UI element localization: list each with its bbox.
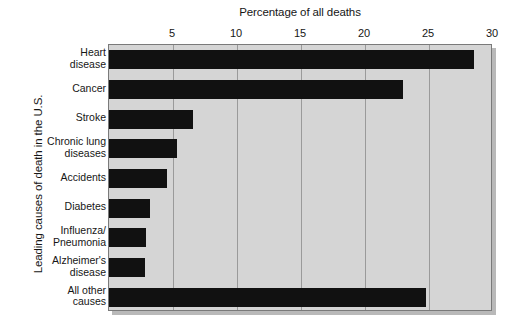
category-label-line: Pneumonia bbox=[22, 237, 106, 249]
bar bbox=[109, 258, 145, 277]
category-label-list: HeartdiseaseCancerStrokeChronic lungdise… bbox=[22, 44, 106, 314]
category-label: Cancer bbox=[22, 83, 106, 95]
bar bbox=[109, 110, 193, 129]
x-tick-label-25: 25 bbox=[422, 27, 434, 39]
category-label: Alzheimer'sdisease bbox=[22, 255, 106, 278]
x-tick-label-10: 10 bbox=[230, 27, 242, 39]
bar bbox=[109, 50, 474, 69]
x-axis-title: Percentage of all deaths bbox=[108, 6, 492, 18]
category-label-line: Cancer bbox=[22, 83, 106, 95]
x-tick-label-30: 30 bbox=[486, 27, 498, 39]
category-label-line: causes bbox=[22, 296, 106, 308]
bar bbox=[109, 139, 177, 158]
category-label: All othercauses bbox=[22, 285, 106, 308]
bar bbox=[109, 169, 167, 188]
x-tick-label-5: 5 bbox=[169, 27, 175, 39]
category-label: Diabetes bbox=[22, 201, 106, 213]
bar bbox=[109, 228, 146, 247]
x-tick-label-20: 20 bbox=[358, 27, 370, 39]
category-label-line: Stroke bbox=[22, 112, 106, 124]
category-label-line: disease bbox=[22, 267, 106, 279]
gridline-25 bbox=[429, 45, 430, 310]
bar bbox=[109, 288, 426, 307]
category-label: Heartdisease bbox=[22, 47, 106, 70]
category-label-line: diseases bbox=[22, 148, 106, 160]
plot-area bbox=[108, 44, 492, 311]
category-label: Chronic lungdiseases bbox=[22, 136, 106, 159]
category-label-line: Accidents bbox=[22, 172, 106, 184]
x-axis-tick-labels: 51015202530 bbox=[0, 27, 511, 41]
bar bbox=[109, 199, 150, 218]
category-label: Accidents bbox=[22, 172, 106, 184]
x-tick-label-15: 15 bbox=[294, 27, 306, 39]
category-label: Stroke bbox=[22, 112, 106, 124]
category-label-line: disease bbox=[22, 59, 106, 71]
bar-chart: Percentage of all deaths 51015202530 Lea… bbox=[0, 0, 511, 327]
category-label-line: Alzheimer's bbox=[22, 255, 106, 267]
category-label-line: Diabetes bbox=[22, 201, 106, 213]
category-label: Influenza/Pneumonia bbox=[22, 225, 106, 248]
bar bbox=[109, 80, 403, 99]
